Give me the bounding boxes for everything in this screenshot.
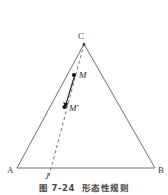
vertex-label-c: C bbox=[78, 31, 84, 41]
point-mprime-dot bbox=[62, 105, 66, 109]
figure-caption-number: 图 7-24 bbox=[39, 183, 75, 193]
figure-caption-title: 形态性规则 bbox=[82, 183, 130, 193]
triangle-outline bbox=[17, 44, 155, 168]
triangle-side-cb bbox=[84, 44, 155, 168]
vertex-label-a: A bbox=[7, 165, 14, 175]
point-label-m-prime: M' bbox=[68, 103, 79, 113]
dashed-cevian-line bbox=[49, 44, 84, 176]
figure-caption: 图 7-24形态性规则 bbox=[0, 183, 168, 194]
arrow-shaft bbox=[66, 76, 75, 104]
point-c-dot bbox=[83, 43, 86, 46]
vertex-label-b: B bbox=[158, 165, 164, 175]
figure-container: C A B J M M' 图 7-24形态性规则 bbox=[0, 0, 168, 195]
point-m-dot bbox=[72, 73, 76, 77]
triangle-diagram: C A B J M M' bbox=[0, 0, 168, 180]
point-label-m: M bbox=[78, 70, 87, 80]
